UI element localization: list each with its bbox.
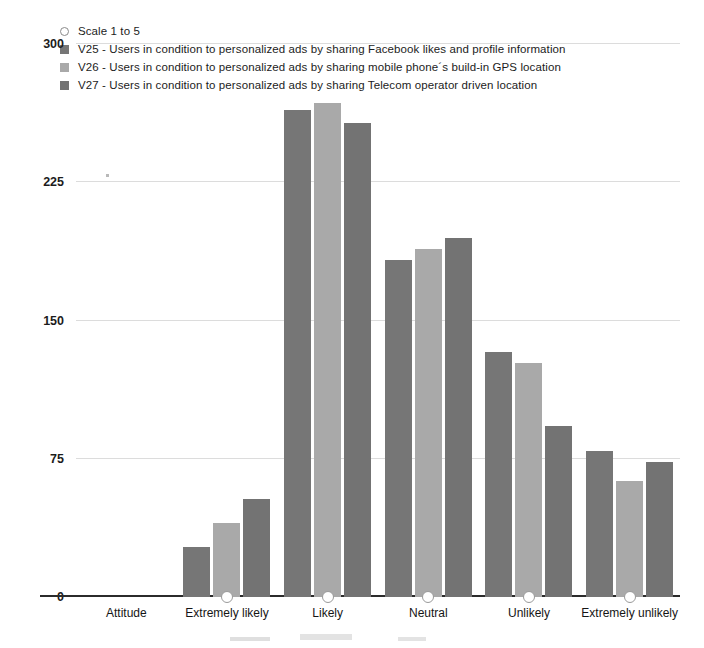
bar-group: Neutral <box>378 44 479 597</box>
bar-group: Unlikely <box>479 44 580 597</box>
scale-marker-dot <box>624 591 636 603</box>
bar[interactable] <box>213 523 240 597</box>
scale-marker-dot <box>322 591 334 603</box>
x-axis-category-label: Attitude <box>106 606 147 620</box>
scan-speck <box>300 634 352 640</box>
y-axis-tick-label: 0 <box>57 590 64 604</box>
bar-group-bars <box>76 44 177 597</box>
bar-group: Likely <box>277 44 378 597</box>
bar-group-bars <box>479 44 580 597</box>
plot-area: 075150225300 AttitudeExtremely likelyLik… <box>76 44 680 597</box>
scan-speck <box>230 637 270 641</box>
legend-label-scale: Scale 1 to 5 <box>78 25 140 37</box>
bar[interactable] <box>485 352 512 597</box>
bar[interactable] <box>415 249 442 597</box>
bar-group-bars <box>177 44 278 597</box>
x-axis-category-label: Likely <box>312 606 343 620</box>
bar[interactable] <box>284 110 311 597</box>
x-axis-category-label: Extremely likely <box>185 606 268 620</box>
bar[interactable] <box>646 462 673 597</box>
bar[interactable] <box>616 481 643 597</box>
bar-chart: Scale 1 to 5 V25 - Users in condition to… <box>0 0 704 648</box>
bar[interactable] <box>314 103 341 597</box>
y-axis-tick-label: 225 <box>43 175 64 189</box>
bar[interactable] <box>344 123 371 597</box>
legend-item-scale: Scale 1 to 5 <box>60 22 700 40</box>
bar-group: Extremely likely <box>177 44 278 597</box>
x-axis-category-label: Neutral <box>409 606 448 620</box>
scale-marker-dot <box>523 591 535 603</box>
open-circle-marker-icon <box>60 27 69 36</box>
bar[interactable] <box>445 238 472 597</box>
y-axis-tick-label: 150 <box>43 314 64 328</box>
scale-marker-dot <box>422 591 434 603</box>
scan-speck <box>398 637 426 641</box>
bar[interactable] <box>183 547 210 597</box>
bar-group: Attitude <box>76 44 177 597</box>
bar[interactable] <box>586 451 613 597</box>
legend-swatch-v26 <box>60 63 69 72</box>
y-axis-tick-label: 300 <box>43 37 64 51</box>
bar[interactable] <box>515 363 542 597</box>
bar[interactable] <box>243 499 270 597</box>
bar-group-bars <box>579 44 680 597</box>
bar-group-bars <box>277 44 378 597</box>
legend-swatch-v27 <box>60 81 69 90</box>
scale-marker-dot <box>221 591 233 603</box>
x-axis-category-label: Unlikely <box>508 606 550 620</box>
y-axis-tick-label: 75 <box>50 452 64 466</box>
scan-speck <box>106 174 109 177</box>
bar[interactable] <box>385 260 412 597</box>
x-axis-category-label: Extremely unlikely <box>581 606 678 620</box>
bar-group-bars <box>378 44 479 597</box>
bar-group: Extremely unlikely <box>579 44 680 597</box>
bar[interactable] <box>545 426 572 597</box>
